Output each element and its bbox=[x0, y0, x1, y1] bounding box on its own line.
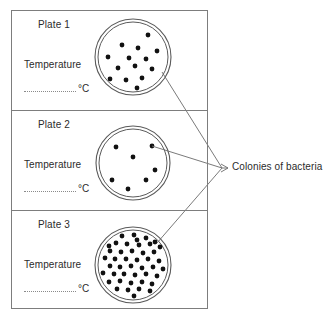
plate-1-temperature-label: Temperature bbox=[24, 59, 81, 70]
dotted-leader-icon bbox=[24, 283, 76, 292]
plate-2-temperature-unit: °C bbox=[78, 183, 89, 194]
plate-1-temperature-unit: °C bbox=[78, 83, 89, 94]
dotted-leader-icon bbox=[24, 83, 76, 92]
plate-row-2: Plate 2 Temperature °C bbox=[12, 111, 207, 211]
plate-1-title: Plate 1 bbox=[38, 19, 70, 30]
plate-2-temperature-blank: °C bbox=[24, 183, 89, 194]
plate-1-temperature-blank: °C bbox=[24, 83, 89, 94]
plate-3-temperature-blank: °C bbox=[24, 283, 89, 294]
colonies-of-bacteria-label: Colonies of bacteria bbox=[232, 161, 322, 172]
plate-3-title: Plate 3 bbox=[38, 219, 70, 230]
plate-3-temperature-label: Temperature bbox=[24, 259, 81, 270]
plate-2-temperature-label: Temperature bbox=[24, 159, 81, 170]
bacteria-plates-diagram: Plate 1 Temperature °C Plate 2 Temperatu… bbox=[0, 0, 327, 319]
plate-row-1: Plate 1 Temperature °C bbox=[12, 11, 207, 111]
plate-2-title: Plate 2 bbox=[38, 119, 70, 130]
plate-3-temperature-unit: °C bbox=[78, 283, 89, 294]
plate-row-3: Plate 3 Temperature °C bbox=[12, 211, 207, 308]
dotted-leader-icon bbox=[24, 183, 76, 192]
plates-frame: Plate 1 Temperature °C Plate 2 Temperatu… bbox=[11, 10, 208, 309]
